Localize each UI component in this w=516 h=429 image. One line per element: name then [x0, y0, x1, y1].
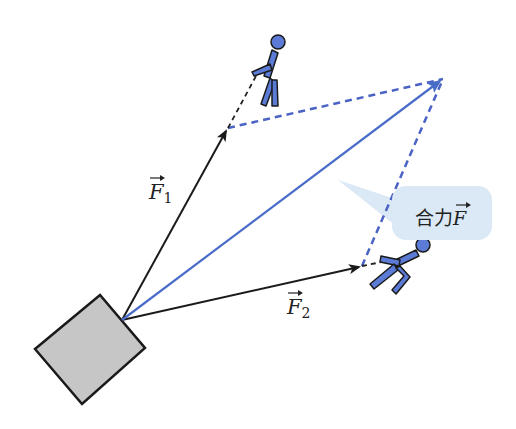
resultant-label: 合力F — [415, 203, 466, 230]
person-figure-1 — [252, 35, 285, 106]
label-f1: F1 — [149, 182, 173, 205]
box — [35, 295, 145, 404]
resultant-symbol: F — [453, 207, 466, 229]
vector-arrow-icon — [456, 201, 471, 209]
f1-symbol: F — [149, 180, 164, 204]
person-figure-2 — [370, 238, 430, 294]
f2-subscript: 2 — [302, 305, 311, 321]
vector-arrow-icon — [288, 289, 303, 297]
callout-tail — [338, 180, 398, 226]
f1-subscript: 1 — [164, 190, 173, 206]
f2-symbol: F — [287, 295, 302, 319]
label-f2: F2 — [287, 297, 311, 320]
resultant-prefix: 合力 — [415, 207, 453, 229]
rope-1 — [228, 76, 256, 128]
vector-arrow-icon — [150, 174, 165, 182]
force-arrow-f1 — [122, 131, 226, 320]
